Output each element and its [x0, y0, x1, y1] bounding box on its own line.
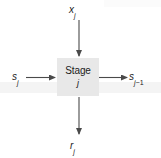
stage-block: Stage j — [57, 58, 99, 96]
left-input-label: sj — [12, 71, 19, 82]
bottom-output-subscript: j — [73, 148, 75, 155]
top-input-label: xj — [69, 4, 76, 15]
stage-block-index: j — [77, 78, 79, 89]
right-output-label: sj−1 — [129, 71, 144, 82]
bottom-output-label: rj — [70, 140, 75, 151]
stage-block-label: Stage — [65, 65, 91, 76]
left-input-subscript: j — [17, 79, 19, 86]
top-input-subscript: j — [74, 12, 76, 19]
stage-block-diagram: Stage j xj sj sj−1 rj — [0, 0, 161, 158]
right-output-subscript-2: 1 — [140, 79, 144, 86]
